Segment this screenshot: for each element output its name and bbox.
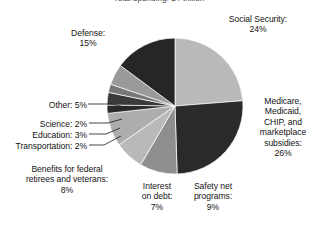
pie-slice	[175, 101, 243, 174]
slice-label-interest-on-debt: Interest on debt: 7%	[132, 181, 182, 212]
pie-slice	[175, 38, 243, 106]
pie-slice-group	[107, 38, 243, 174]
slice-label-defense: Defense: 15%	[52, 28, 124, 49]
pie-chart-figure: Total spending: $4 trillion Social Secur…	[0, 0, 318, 225]
slice-label-benefits: Benefits for federal retirees and vetera…	[8, 164, 126, 195]
slice-label-other: Other: 5%	[2, 100, 87, 110]
slice-label-safety-net: Safety net programs: 9%	[183, 181, 243, 212]
slice-label-science: Science: 2%	[0, 119, 87, 129]
slice-label-education: Education: 3%	[0, 130, 87, 140]
slice-label-transportation: Transportation: 2%	[0, 141, 87, 151]
slice-label-medicare: Medicare, Medicaid, CHIP, and marketplac…	[248, 96, 318, 158]
slice-label-social-security: Social Security: 24%	[206, 14, 310, 35]
